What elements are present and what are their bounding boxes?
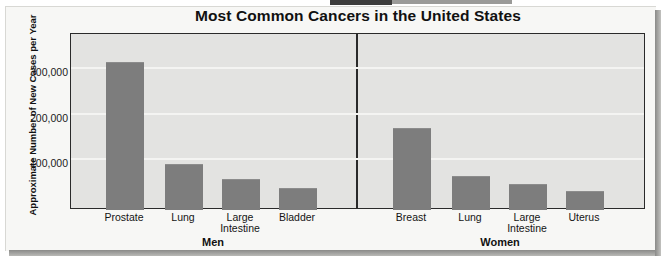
page-top-notch-secondary: [392, 0, 512, 4]
plot-area: [70, 33, 645, 209]
page-top-notch: [330, 0, 392, 5]
bar-women-uterus: [566, 191, 604, 210]
y-tick-label-200000: 200,000: [10, 112, 68, 124]
page-shadow-bottom: [9, 250, 659, 256]
bar-men-prostate: [106, 62, 144, 210]
group-label-men: Men: [153, 236, 273, 248]
y-tick-label-300000: 300,000: [10, 66, 68, 78]
bar-men-large-intestine: [222, 179, 260, 210]
bar-women-breast: [393, 128, 431, 210]
chart-title: Most Common Cancers in the United States: [70, 7, 646, 25]
bar-men-bladder: [279, 188, 317, 210]
category-label-men-bladder: Bladder: [262, 212, 332, 223]
group-label-women: Women: [440, 236, 560, 248]
group-divider-line: [356, 34, 358, 208]
gridline-100000: [71, 158, 644, 160]
gridline-200000: [71, 113, 644, 115]
bar-women-large-intestine: [509, 184, 547, 210]
y-tick-label-100000: 100,000: [10, 157, 68, 169]
chart-page: Most Common Cancers in the United States…: [0, 0, 666, 264]
bar-men-lung: [165, 164, 203, 210]
y-axis-tick-labels: 300,000200,000100,000: [6, 0, 68, 264]
page-shadow-right: [655, 10, 661, 256]
gridline-300000: [71, 67, 644, 69]
bar-women-lung: [452, 176, 490, 210]
category-label-women-uterus: Uterus: [549, 212, 619, 223]
